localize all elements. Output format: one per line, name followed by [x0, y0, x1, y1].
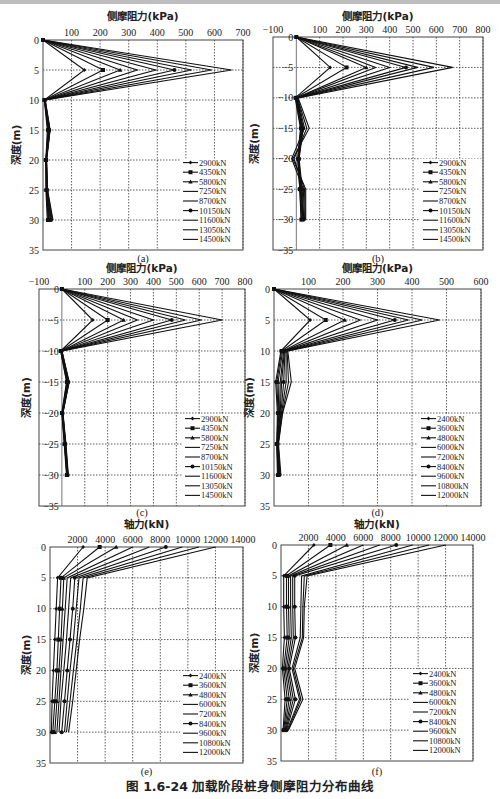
svg-text:500: 500: [439, 276, 454, 287]
y-tick-labels: 0−5−10−15−20−25−30−35: [43, 284, 59, 512]
chart-panel-c: −1001002003004005006007008000−5−10−15−20…: [20, 262, 253, 519]
svg-text:35: 35: [260, 501, 270, 512]
x-tick-labels: 2000400060008000100001200014000: [68, 534, 256, 545]
svg-text:500: 500: [406, 24, 421, 35]
y-axis-label: 深度(m): [20, 635, 32, 676]
svg-text:10: 10: [267, 601, 277, 612]
legend-item: 10150kN: [201, 462, 233, 472]
svg-text:400: 400: [405, 276, 420, 287]
svg-text:20: 20: [36, 665, 46, 676]
series-8700kN: [43, 40, 156, 220]
svg-text:5: 5: [265, 315, 270, 326]
axis-title: 侧摩阻力(kPa): [342, 262, 413, 274]
svg-text:30: 30: [29, 215, 39, 226]
chart-panel-a: 10020030040050060070005101520253035侧摩阻力(…: [10, 10, 251, 265]
legend-item: 14500kN: [199, 234, 231, 244]
svg-text:600: 600: [207, 27, 222, 38]
legend-item: 4800kN: [437, 433, 464, 443]
svg-text:20: 20: [267, 663, 277, 674]
svg-text:15: 15: [36, 634, 46, 645]
legend-item: 5800kN: [201, 433, 228, 443]
y-axis-label: 深度(m): [248, 633, 260, 674]
svg-text:15: 15: [267, 632, 277, 643]
legend-item: 8400kN: [199, 719, 226, 729]
legend: 2400kN3600kN4800kN6000kN7200kN8400kN9600…: [180, 671, 242, 762]
svg-text:14000: 14000: [231, 534, 256, 545]
svg-text:−5: −5: [283, 62, 294, 73]
figure-canvas: 10020030040050060070005101520253035侧摩阻力(…: [0, 0, 500, 799]
svg-text:−25: −25: [278, 184, 294, 195]
svg-text:−100: −100: [29, 276, 50, 287]
x-tick-labels: −100100200300400500600700800: [263, 24, 491, 35]
svg-text:−10: −10: [43, 346, 59, 357]
svg-text:700: 700: [236, 27, 251, 38]
svg-text:5: 5: [272, 570, 277, 581]
y-tick-labels: 05101520253035: [36, 542, 46, 769]
svg-text:35: 35: [36, 758, 46, 769]
svg-text:500: 500: [169, 276, 184, 287]
legend-item: 12000kN: [429, 745, 461, 755]
svg-text:−20: −20: [278, 153, 294, 164]
legend-item: 5800kN: [439, 177, 466, 187]
legend-item: 10800kN: [199, 738, 231, 748]
svg-text:15: 15: [260, 377, 270, 388]
svg-text:700: 700: [452, 24, 467, 35]
svg-text:−15: −15: [278, 123, 294, 134]
svg-text:200: 200: [93, 27, 108, 38]
svg-text:100: 100: [64, 27, 79, 38]
svg-text:30: 30: [36, 727, 46, 738]
y-axis-label: 深度(m): [10, 125, 22, 166]
chart-panel-e: 2000400060008000100001200014000051015202…: [20, 518, 256, 778]
svg-text:35: 35: [267, 756, 277, 767]
svg-text:200: 200: [100, 276, 115, 287]
legend-item: 11600kN: [199, 215, 230, 225]
legend-item: 7250kN: [199, 186, 226, 196]
y-tick-labels: 05101520253035: [29, 35, 39, 256]
svg-text:8000: 8000: [381, 532, 401, 543]
legend-item: 8700kN: [201, 452, 228, 462]
legend-item: 2400kN: [437, 414, 464, 424]
svg-text:6000: 6000: [123, 534, 143, 545]
svg-text:10000: 10000: [175, 534, 200, 545]
legend-item: 7250kN: [201, 442, 228, 452]
axis-title: 轴力(kN): [354, 518, 399, 530]
legend: 2400kN3600kN4800kN6000kN7200kN8400kN9600…: [418, 414, 480, 505]
svg-text:0: 0: [34, 35, 39, 46]
svg-text:25: 25: [260, 439, 270, 450]
legend-item: 10800kN: [437, 481, 469, 491]
legend-item: 14500kN: [201, 490, 233, 500]
svg-text:0: 0: [54, 284, 59, 295]
legend-item: 7200kN: [437, 452, 464, 462]
series-5800kN: [43, 40, 120, 220]
legend-item: 7200kN: [199, 709, 226, 719]
x-tick-labels: −100100200300400500600700800: [29, 276, 253, 287]
legend-item: 13050kN: [199, 225, 231, 235]
legend-item: 14500kN: [439, 234, 471, 244]
svg-text:15: 15: [29, 125, 39, 136]
legend-item: 9600kN: [429, 726, 456, 736]
legend-item: 9600kN: [199, 728, 226, 738]
chart-panel-b: −1001002003004005006007008000−5−10−15−20…: [248, 10, 491, 265]
y-axis-label: 深度(m): [243, 377, 255, 418]
legend: 2900kN4350kN5800kN7250kN8700kN10150kN116…: [420, 158, 482, 249]
legend-item: 4350kN: [439, 167, 466, 177]
legend-item: 8400kN: [429, 717, 456, 727]
x-tick-labels: 2000400060008000100001200014000: [298, 532, 485, 543]
legend-item: 11600kN: [439, 215, 470, 225]
legend-item: 3600kN: [429, 678, 456, 688]
svg-text:−5: −5: [48, 315, 59, 326]
svg-text:12000: 12000: [433, 532, 458, 543]
svg-text:0: 0: [288, 32, 293, 43]
svg-text:−10: −10: [278, 92, 294, 103]
legend: 2400kN3600kN4800kN6000kN7200kN8400kN9600…: [410, 669, 472, 760]
legend: 2900kN4350kN5800kN7250kN8700kN10150kN116…: [182, 414, 244, 505]
svg-text:200: 200: [336, 24, 351, 35]
legend-item: 2400kN: [199, 671, 226, 681]
axis-title: 侧摩阻力(kPa): [107, 10, 178, 22]
y-tick-labels: 05101520253035: [267, 540, 277, 767]
y-axis-label: 深度(m): [20, 377, 32, 418]
svg-text:10: 10: [260, 346, 270, 357]
svg-text:100: 100: [312, 24, 327, 35]
svg-text:600: 600: [429, 24, 444, 35]
svg-text:700: 700: [215, 276, 230, 287]
